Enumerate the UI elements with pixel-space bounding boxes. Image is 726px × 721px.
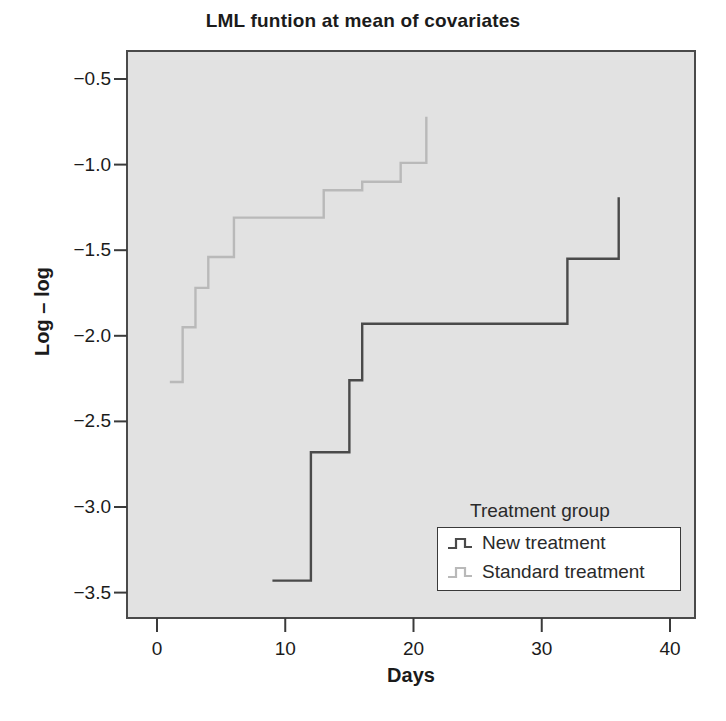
chart-figure: LML funtion at mean of covariates Log – …	[0, 0, 726, 721]
legend-box: New treatmentStandard treatment	[437, 527, 681, 591]
step-line-icon	[446, 564, 474, 580]
legend-title: Treatment group	[470, 500, 610, 522]
legend-item-label: New treatment	[482, 532, 606, 554]
plot-area	[0, 0, 726, 721]
step-line-icon	[446, 535, 474, 551]
legend-item[interactable]: New treatment	[438, 528, 680, 557]
legend-item[interactable]: Standard treatment	[438, 557, 680, 586]
legend-item-label: Standard treatment	[482, 561, 645, 583]
